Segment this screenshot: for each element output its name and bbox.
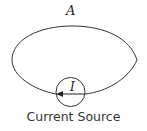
caption: Current Source xyxy=(0,109,147,124)
loop-label: A xyxy=(66,3,75,18)
current-label: I xyxy=(70,80,75,94)
